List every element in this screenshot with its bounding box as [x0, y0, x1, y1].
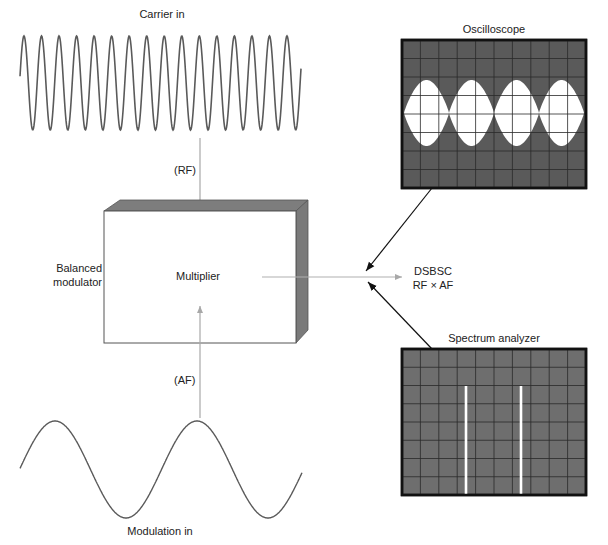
spectrum-analyzer-title: Spectrum analyzer	[434, 332, 554, 345]
dsbsc-label-line1: DSBSC	[408, 265, 458, 278]
oscilloscope-pointer-arrow	[366, 188, 432, 271]
oscilloscope-title: Oscilloscope	[444, 23, 544, 36]
carrier-in-label: Carrier in	[112, 8, 212, 21]
rf-signal-tag: (RF)	[174, 164, 196, 177]
balanced-modulator-label-line1: Balanced	[20, 262, 102, 275]
modulation-in-label: Modulation in	[110, 525, 210, 538]
spectrum-analyzer-screen	[402, 349, 586, 495]
modulation-waveform	[20, 421, 302, 518]
spectrum-pointer-arrow	[368, 282, 432, 349]
oscilloscope-screen	[402, 40, 586, 188]
box-side-face	[296, 200, 308, 343]
multiplier-label: Multiplier	[148, 270, 248, 283]
af-signal-tag: (AF)	[174, 374, 195, 387]
dsbsc-label-line2: RF × AF	[408, 279, 458, 292]
box-top-face	[104, 200, 308, 211]
carrier-waveform	[20, 36, 301, 130]
balanced-modulator-label-line2: modulator	[20, 276, 102, 289]
